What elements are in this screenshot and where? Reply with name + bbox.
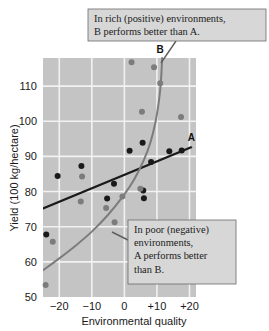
data-point-b	[137, 186, 143, 192]
data-point-a	[55, 173, 61, 179]
data-point-b	[129, 59, 135, 65]
y-tick-label: 70	[25, 221, 37, 233]
callout-line: A performs better	[134, 250, 208, 261]
data-point-a	[140, 140, 146, 146]
data-point-b	[103, 205, 109, 211]
figure-container: AB −20−100+10+20 5060708090100110 Enviro…	[0, 0, 269, 331]
y-axis-title: Yield (100 kg/hectare)	[8, 124, 20, 231]
data-point-b	[157, 80, 163, 86]
data-point-b	[151, 64, 157, 70]
callout-line: B performs better than A.	[94, 26, 200, 37]
y-tick-label: 100	[19, 115, 37, 127]
y-tick-label: 80	[25, 186, 37, 198]
chart-svg: AB −20−100+10+20 5060708090100110 Enviro…	[0, 0, 269, 331]
data-point-a	[43, 231, 49, 237]
data-point-b	[43, 282, 49, 288]
data-point-b	[139, 109, 145, 115]
data-point-a	[127, 148, 133, 154]
x-tick-label: +10	[148, 300, 167, 312]
x-axis-title: Environmental quality	[81, 315, 187, 327]
data-point-b	[79, 173, 85, 179]
y-tick-label: 90	[25, 150, 37, 162]
data-point-b	[78, 198, 84, 204]
data-point-a	[78, 163, 84, 169]
callout-line: environments,	[134, 237, 193, 248]
x-tick-label: +20	[180, 300, 199, 312]
data-point-a	[104, 196, 110, 202]
y-tick-label: 60	[25, 256, 37, 268]
data-point-a	[166, 148, 172, 154]
data-point-b	[50, 239, 56, 245]
y-tick-label: 110	[19, 80, 37, 92]
y-tick-label: 50	[25, 291, 37, 303]
callout-line: than B.	[134, 264, 164, 275]
x-tick-label: 0	[121, 300, 127, 312]
x-tick-label: −20	[50, 300, 69, 312]
x-tick-label: −10	[82, 300, 101, 312]
data-point-b	[178, 114, 184, 120]
data-point-a	[111, 181, 117, 187]
callout-rich-environments: In rich (positive) environments,B perfor…	[88, 9, 266, 41]
data-point-b	[119, 193, 125, 199]
data-point-b	[112, 219, 118, 225]
curve-label-a: A	[188, 132, 195, 143]
data-point-a	[179, 147, 185, 153]
curve-label-b: B	[157, 44, 164, 55]
data-point-a	[148, 159, 154, 165]
callout-line: In poor (negative)	[134, 224, 209, 236]
data-point-a	[141, 195, 147, 201]
callout-poor-environments: In poor (negative)environments,A perform…	[128, 220, 236, 284]
callout-line: In rich (positive) environments,	[94, 13, 226, 25]
